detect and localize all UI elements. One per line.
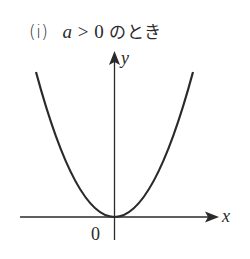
parabola-graph: y x 0 bbox=[0, 0, 250, 259]
x-axis-label: x bbox=[221, 206, 230, 226]
y-axis-label: y bbox=[119, 48, 129, 68]
origin-label: 0 bbox=[91, 224, 100, 244]
